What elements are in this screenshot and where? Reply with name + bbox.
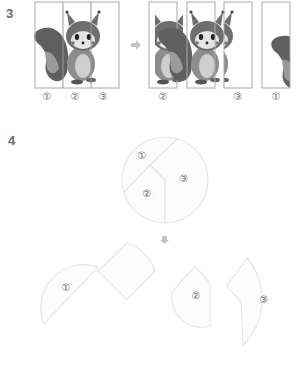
piece-unlabeled <box>98 243 155 300</box>
strip-1 <box>262 2 308 93</box>
circle-label-3: ③ <box>176 173 192 184</box>
original-picture <box>34 2 119 88</box>
problem-3-number: 3 <box>6 6 13 21</box>
piece-label-3: ③ <box>256 294 272 305</box>
diagram-canvas <box>0 0 308 372</box>
label-strip-2: ② <box>155 91 171 102</box>
piece-label-2: ② <box>188 290 204 301</box>
label-original-1: ① <box>39 91 55 102</box>
label-original-2: ② <box>67 91 83 102</box>
label-strip-1: ① <box>268 91 284 102</box>
piece-1 <box>41 265 98 324</box>
piece-label-1: ① <box>58 282 74 293</box>
label-original-3: ③ <box>95 91 111 102</box>
label-strip-3: ③ <box>230 91 246 102</box>
right-arrow-icon <box>131 40 141 50</box>
problem-4-number: 4 <box>8 133 15 148</box>
circle-label-2: ② <box>139 188 155 199</box>
down-arrow-icon <box>160 236 169 244</box>
circle-label-1: ① <box>134 150 150 161</box>
